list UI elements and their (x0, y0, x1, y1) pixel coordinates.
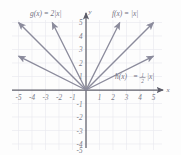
x-tick--2: -2 (56, 94, 62, 102)
x-tick-1: 1 (98, 94, 102, 102)
x-tick--4: -4 (29, 94, 35, 102)
y-tick-2: 2 (79, 60, 83, 68)
x-tick--1: -1 (70, 94, 76, 102)
coordinate-plane: -5 -4 -3 -2 -1 1 2 3 4 5 5 4 3 2 1 -1 -2… (0, 0, 181, 155)
y-tick--2: -2 (77, 114, 83, 122)
x-tick--3: -3 (43, 94, 49, 102)
y-tick-1: 1 (79, 73, 83, 81)
x-tick-4: 4 (138, 94, 142, 102)
x-axis-label: x (165, 86, 170, 94)
x-tick-3: 3 (124, 94, 129, 102)
y-tick--3: -3 (77, 128, 83, 136)
h-fraction-denominator: 2 (141, 78, 144, 84)
x-tick-2: 2 (111, 94, 115, 102)
y-tick-3: 3 (78, 46, 83, 54)
g-function-label: g(x) = 2|x| (30, 9, 62, 18)
y-tick--5: -5 (77, 147, 83, 155)
h-function-label-lead: h(x) (115, 72, 127, 81)
x-tick--5: -5 (16, 94, 22, 102)
y-tick-4: 4 (79, 33, 83, 41)
y-tick--1: -1 (77, 101, 83, 109)
h-function-label: h(x) = 1 2 |x| (115, 72, 154, 85)
graph-figure: -5 -4 -3 -2 -1 1 2 3 4 5 5 4 3 2 1 -1 -2… (0, 0, 181, 155)
x-tick-5: 5 (152, 94, 156, 102)
h-function-label-tail: |x| (147, 72, 154, 81)
h-function-label-equals: = (133, 72, 138, 81)
y-axis-label: y (87, 8, 92, 16)
y-tick-5: 5 (79, 19, 83, 27)
grid-lines (12, 20, 162, 150)
f-function-label: f(x) = |x| (112, 9, 138, 18)
h-fraction-numerator: 1 (141, 72, 144, 78)
